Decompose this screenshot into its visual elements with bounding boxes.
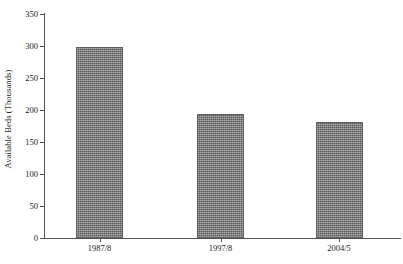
y-axis-tick	[40, 46, 45, 47]
x-axis-category-label: 1997/8	[209, 243, 233, 253]
x-axis-tick	[221, 238, 222, 242]
y-axis-tick-label: 200	[25, 105, 38, 115]
y-axis-tick	[40, 238, 45, 239]
bar-chart: Available Beds (Thousands) 0501001502002…	[0, 0, 403, 264]
y-axis-tick-label: 150	[25, 137, 38, 147]
bar-1987-8	[76, 47, 123, 238]
y-axis-tick-label: 350	[25, 9, 38, 19]
x-axis-tick	[100, 238, 101, 242]
x-axis-category-label: 1987/8	[88, 243, 112, 253]
y-axis-tick-label: 300	[25, 41, 38, 51]
y-axis-tick	[40, 110, 45, 111]
y-axis-tick	[40, 14, 45, 15]
bar-2004-5	[316, 122, 363, 238]
x-axis-tick	[339, 238, 340, 242]
y-axis-tick-label: 50	[30, 201, 39, 211]
x-axis-category-label: 2004/5	[327, 243, 351, 253]
y-axis-tick	[40, 174, 45, 175]
y-axis-tick	[40, 206, 45, 207]
y-axis-title: Available Beds (Thousands)	[0, 0, 16, 238]
y-axis-tick-label: 250	[25, 73, 38, 83]
x-axis-line	[44, 238, 401, 239]
y-axis-title-text: Available Beds (Thousands)	[3, 70, 13, 169]
y-axis-tick	[40, 78, 45, 79]
y-axis-tick	[40, 142, 45, 143]
bar-1997-8	[197, 114, 244, 238]
y-axis-tick-label: 0	[34, 233, 38, 243]
y-axis-tick-label: 100	[25, 169, 38, 179]
